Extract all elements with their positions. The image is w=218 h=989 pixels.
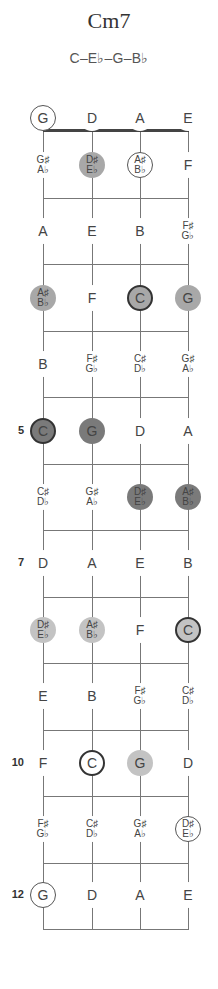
chord-tone-marker: A♯B♭ (30, 285, 56, 311)
fret-note: D (30, 550, 56, 576)
note-label: A (38, 224, 47, 238)
fret-line (43, 863, 189, 864)
fret-note: C♯D♭ (30, 484, 56, 510)
fret-line (43, 198, 189, 199)
fret-number: 7 (4, 556, 24, 568)
note-flat-label: E♭ (182, 829, 194, 839)
fret-number: 10 (4, 756, 24, 768)
note-label: C (183, 623, 193, 637)
note-flat-label: E♭ (37, 630, 49, 640)
note-label: F (88, 291, 97, 305)
fret-line (43, 663, 189, 664)
fret-note: G♯A♭ (127, 816, 153, 842)
fret-note: F♯G♭ (127, 683, 153, 709)
fret-note: B (30, 351, 56, 377)
fret-note: A (127, 105, 153, 131)
note-flat-label: D♭ (182, 696, 194, 706)
fret-note: F (30, 750, 56, 776)
note-label: B (135, 224, 144, 238)
note-label: G (183, 291, 194, 305)
chord-tone-marker: G (30, 882, 56, 908)
note-label: D (87, 888, 97, 902)
chord-tone-marker: G (175, 285, 201, 311)
note-flat-label: E♭ (134, 497, 146, 507)
note-label: G (38, 111, 49, 125)
chord-tone-marker: G (30, 105, 56, 131)
fret-note: A (30, 218, 56, 244)
chord-tone-marker: C (175, 617, 201, 643)
note-flat-label: D♭ (37, 497, 49, 507)
fret-note: G♯A♭ (175, 351, 201, 377)
note-label: A (183, 424, 192, 438)
fret-note: E (30, 683, 56, 709)
fret-note: A (175, 418, 201, 444)
note-flat-label: A♭ (86, 497, 98, 507)
fret-note: G♯A♭ (79, 484, 105, 510)
fret-note: C♯D♭ (127, 351, 153, 377)
fret-note: D (79, 882, 105, 908)
note-flat-label: G♭ (134, 696, 147, 706)
note-label: G (135, 756, 146, 770)
chord-tone-marker: D♯E♭ (30, 617, 56, 643)
chord-tone-marker: G (127, 750, 153, 776)
fret-line (43, 464, 189, 465)
fret-number: 5 (4, 424, 24, 436)
note-label: G (87, 424, 98, 438)
chord-tone-marker: D♯E♭ (127, 484, 153, 510)
note-label: E (183, 111, 192, 125)
fret-note: F (79, 285, 105, 311)
chord-tone-marker: G (79, 418, 105, 444)
fret-line (43, 929, 189, 930)
note-flat-label: A♭ (134, 829, 146, 839)
fret-note: F (175, 152, 201, 178)
note-label: E (38, 689, 47, 703)
fret-note: C♯D♭ (175, 683, 201, 709)
note-flat-label: B♭ (182, 497, 194, 507)
note-label: E (135, 556, 144, 570)
note-label: F (136, 623, 145, 637)
chord-tone-marker: A♯B♭ (127, 152, 153, 178)
note-label: C (135, 291, 145, 305)
fret-note: B (79, 683, 105, 709)
note-label: G (38, 888, 49, 902)
fret-note: D (127, 418, 153, 444)
fret-note: F (127, 617, 153, 643)
note-label: B (87, 689, 96, 703)
fretboard-diagram: GDAEG♯A♭D♯E♭A♯B♭FAEBF♯G♭A♯B♭FCGBF♯G♭C♯D♭… (0, 0, 218, 989)
fret-note: D (79, 105, 105, 131)
fret-note: D (175, 750, 201, 776)
chord-tone-marker: D♯E♭ (79, 152, 105, 178)
fret-line (43, 530, 189, 531)
fret-line (43, 397, 189, 398)
fret-note: F♯G♭ (30, 816, 56, 842)
note-label: D (87, 111, 97, 125)
note-label: C (87, 756, 97, 770)
fret-line (43, 796, 189, 797)
note-flat-label: A♭ (37, 165, 49, 175)
fret-line (43, 597, 189, 598)
fret-note: C♯D♭ (79, 816, 105, 842)
fret-note: E (175, 105, 201, 131)
fret-note: B (175, 550, 201, 576)
note-label: F (39, 756, 48, 770)
note-flat-label: B♭ (37, 298, 49, 308)
fret-note: B (127, 218, 153, 244)
fret-note: F♯G♭ (79, 351, 105, 377)
note-label: D (135, 424, 145, 438)
note-label: B (183, 556, 192, 570)
note-label: A (87, 556, 96, 570)
fret-note: E (79, 218, 105, 244)
note-flat-label: E♭ (86, 165, 98, 175)
note-flat-label: D♭ (134, 364, 146, 374)
fret-number: 12 (4, 888, 24, 900)
fret-note: E (175, 882, 201, 908)
fret-line (43, 331, 189, 332)
fret-line (43, 264, 189, 265)
fret-line (43, 730, 189, 731)
note-label: D (38, 556, 48, 570)
fret-note: G♯A♭ (30, 152, 56, 178)
nut (43, 129, 189, 132)
note-flat-label: D♭ (86, 829, 98, 839)
note-flat-label: A♭ (182, 364, 194, 374)
note-label: A (135, 888, 144, 902)
